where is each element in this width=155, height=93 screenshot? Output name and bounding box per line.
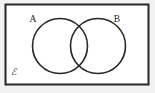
set-a-label: A <box>30 14 37 24</box>
universal-set-rectangle <box>6 5 149 85</box>
venn-diagram-canvas: A B ℰ <box>0 0 155 93</box>
set-b-label: B <box>114 14 120 24</box>
venn-diagram-figure: A B ℰ <box>0 0 155 93</box>
